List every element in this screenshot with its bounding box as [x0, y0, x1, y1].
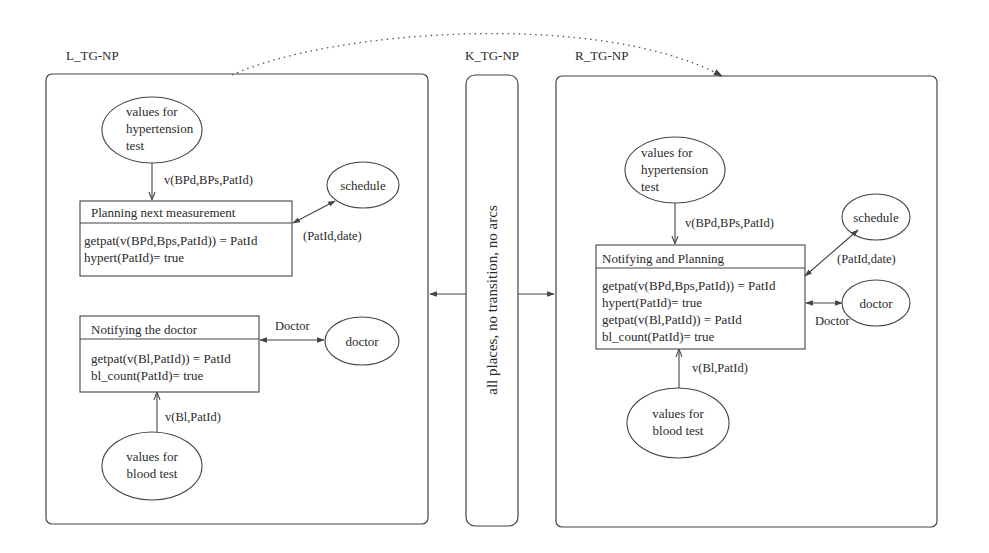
svg-text:getpat(v(BPd,Bps,PatId)) = Pat: getpat(v(BPd,Bps,PatId)) = PatId — [84, 233, 258, 248]
transition-planning-name: Planning next measurement — [91, 205, 236, 220]
place-hypertension-left[interactable]: values for hypertension test — [102, 97, 202, 163]
svg-text:values for: values for — [641, 145, 693, 160]
svg-text:values for: values for — [652, 406, 704, 421]
svg-text:test: test — [641, 179, 659, 194]
kernel-panel-title: K_TG-NP — [465, 48, 519, 63]
arc-label-schedule: (PatId,date) — [303, 229, 362, 243]
arc-label-hyper: v(BPd,BPs,PatId) — [164, 173, 253, 187]
transition-notifying-and-planning[interactable]: Notifying and Planning getpat(v(BPd,Bps,… — [596, 245, 805, 349]
arc-planning-schedule — [293, 201, 335, 223]
transition-notifying[interactable]: Notifying the doctor getpat(v(Bl,PatId))… — [80, 316, 259, 392]
transition-notifying-name: Notifying the doctor — [91, 322, 198, 337]
left-panel-title: L_TG-NP — [66, 48, 119, 63]
svg-text:getpat(v(Bl,PatId)) = PatId: getpat(v(Bl,PatId)) = PatId — [91, 351, 231, 366]
left-panel: L_TG-NP values for hypertension test v(B… — [46, 48, 428, 524]
svg-text:hypertension: hypertension — [126, 121, 194, 136]
svg-text:blood test: blood test — [653, 423, 704, 438]
right-panel: R_TG-NP values for hypertension test v(B… — [556, 48, 937, 527]
svg-text:values for: values for — [126, 104, 178, 119]
place-blood-left[interactable]: values for blood test — [102, 432, 202, 500]
place-schedule-left[interactable]: schedule — [327, 162, 399, 208]
arc-label-schedule-right: (PatId,date) — [837, 252, 896, 266]
svg-text:bl_count(PatId)= true: bl_count(PatId)= true — [602, 329, 715, 344]
svg-text:schedule: schedule — [853, 210, 899, 225]
svg-text:schedule: schedule — [340, 178, 386, 193]
kernel-description: all places, no transition, no arcs — [484, 205, 500, 395]
place-blood-right[interactable]: values for blood test — [627, 388, 729, 458]
arc-label-blood: v(Bl,PatId) — [165, 410, 221, 424]
place-schedule-right[interactable]: schedule — [842, 194, 910, 240]
svg-text:bl_count(PatId)= true: bl_count(PatId)= true — [91, 368, 204, 383]
svg-text:hypert(PatId)= true: hypert(PatId)= true — [602, 295, 702, 310]
place-hypertension-right[interactable]: values for hypertension test — [625, 137, 725, 203]
svg-text:test: test — [126, 138, 144, 153]
transition-planning[interactable]: Planning next measurement getpat(v(BPd,B… — [80, 201, 292, 276]
svg-text:hypertension: hypertension — [641, 162, 709, 177]
svg-text:getpat(v(BPd,Bps,PatId)) = Pat: getpat(v(BPd,Bps,PatId)) = PatId — [602, 278, 776, 293]
arc-label-hyper-right: v(BPd,BPs,PatId) — [685, 216, 774, 230]
svg-text:hypert(PatId)= true: hypert(PatId)= true — [84, 250, 184, 265]
place-doctor-left[interactable]: doctor — [325, 317, 399, 365]
svg-text:blood test: blood test — [127, 466, 178, 481]
svg-text:values for: values for — [126, 449, 178, 464]
transition-combined-name: Notifying and Planning — [602, 251, 725, 266]
diagram-canvas: L_TG-NP values for hypertension test v(B… — [0, 0, 989, 553]
arc-label-doctor-right: Doctor — [815, 314, 851, 328]
arc-label-doctor: Doctor — [275, 319, 311, 333]
svg-text:doctor: doctor — [345, 334, 379, 349]
svg-text:getpat(v(Bl,PatId)) = PatId: getpat(v(Bl,PatId)) = PatId — [602, 312, 742, 327]
place-doctor-right[interactable]: doctor — [842, 280, 910, 326]
right-panel-title: R_TG-NP — [575, 48, 628, 63]
svg-text:doctor: doctor — [859, 296, 893, 311]
arc-label-blood-right: v(Bl,PatId) — [692, 361, 748, 375]
kernel-panel: K_TG-NP all places, no transition, no ar… — [465, 48, 519, 526]
